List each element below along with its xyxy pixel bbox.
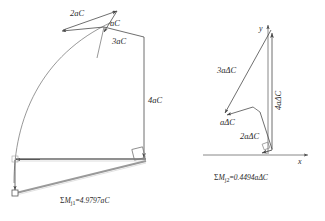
node-drop-line — [97, 27, 104, 58]
label-4aC: 4aC — [148, 95, 163, 105]
svg-text:ΣMj2=0.4494aΔC: ΣMj2=0.4494aΔC — [214, 173, 269, 183]
label-3aC: 3aC — [111, 36, 127, 46]
y-axis-label: y — [258, 24, 263, 33]
label-2aC: 2aC — [70, 8, 85, 18]
label-4adC: 4aΔC — [273, 91, 283, 110]
resultant-bar-left-shadow — [16, 163, 146, 195]
vector-adC — [227, 107, 253, 115]
label-2adC: 2aΔC — [240, 131, 259, 141]
value-j1: 4.9797aC — [80, 196, 111, 205]
value-j2: 0.4494aΔC — [234, 173, 269, 182]
result-label-j1: ΣMj1=4.9797aC — [60, 196, 110, 206]
vector-diagram-svg: 2aC aC 3aC 4aC ΣMj1=4.9797aC y x — [0, 0, 325, 221]
svg-text:ΣMj1=4.9797aC: ΣMj1=4.9797aC — [60, 196, 110, 206]
label-3adC: 3aΔC — [216, 65, 236, 75]
resultant-arrow-right — [262, 150, 272, 153]
origin-angle-marker — [262, 142, 270, 150]
x-axis-label: x — [297, 157, 302, 166]
result-label-j2: ΣMj2=0.4494aΔC — [214, 173, 269, 183]
resultant-bar-left — [16, 161, 146, 193]
figure-root: 2aC aC 3aC 4aC ΣMj1=4.9797aC y x — [0, 0, 325, 221]
right-moment-polygon: y x 3aΔC aΔC 2aΔC 4aΔC ΣMj2=0.4494aΔC — [203, 24, 308, 183]
vector-2adC — [260, 112, 272, 149]
left-moment-polygon: 2aC aC 3aC 4aC ΣMj1=4.9797aC — [12, 8, 163, 206]
vector-connector — [253, 107, 260, 112]
pin-joint-marker — [12, 190, 18, 196]
label-adC: aΔC — [220, 117, 235, 127]
label-aC: aC — [110, 18, 120, 28]
